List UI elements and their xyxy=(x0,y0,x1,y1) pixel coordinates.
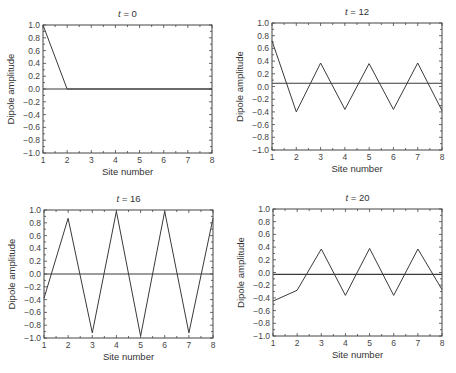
x-tick-label: 6 xyxy=(162,340,167,350)
y-tick-label: −0.2 xyxy=(23,97,40,107)
figure: t = 0123456781.00.80.60.40.20.0−0.2−0.4−… xyxy=(0,0,456,373)
x-tick-label: 4 xyxy=(113,155,118,165)
y-tick-label: −0.8 xyxy=(253,318,270,328)
y-tick-label: −0.4 xyxy=(24,295,41,305)
y-tick-label: 0.2 xyxy=(28,71,40,81)
x-tick-label: 7 xyxy=(415,152,420,162)
x-tick-label: 2 xyxy=(66,340,71,350)
y-tick-label: −0.8 xyxy=(23,135,40,145)
panel-title: t = 20 xyxy=(345,192,369,203)
x-tick-label: 3 xyxy=(90,340,95,350)
y-tick-label: 0.4 xyxy=(28,58,40,68)
x-tick-label: 6 xyxy=(161,155,166,165)
x-tick-label: 7 xyxy=(186,340,191,350)
x-tick-label: 3 xyxy=(319,338,324,348)
panel-title: t = 16 xyxy=(116,193,140,204)
x-tick-label: 2 xyxy=(295,338,300,348)
dipole-line xyxy=(43,25,212,89)
x-axis-label: Site number xyxy=(332,349,383,360)
x-axis-label: Site number xyxy=(102,166,153,177)
x-tick-label: 1 xyxy=(270,152,275,162)
y-tick-label: 0.6 xyxy=(28,46,40,56)
x-tick-label: 5 xyxy=(138,340,143,350)
y-tick-label: 1.0 xyxy=(258,204,270,214)
x-tick-label: 1 xyxy=(42,340,47,350)
y-tick-label: 0.0 xyxy=(258,268,270,278)
y-tick-label: −0.6 xyxy=(253,306,270,316)
y-tick-label: −0.8 xyxy=(252,132,269,142)
y-axis-label: Dipole amplitude xyxy=(5,54,16,125)
y-tick-label: 0.0 xyxy=(257,82,269,92)
dipole-line xyxy=(272,41,442,112)
y-tick-label: 0.2 xyxy=(257,69,269,79)
y-tick-label: 0.0 xyxy=(29,269,41,279)
x-tick-label: 1 xyxy=(271,338,276,348)
y-tick-label: 0.8 xyxy=(29,218,41,228)
x-tick-label: 8 xyxy=(210,155,215,165)
y-tick-label: 1.0 xyxy=(28,20,40,30)
y-tick-label: −1.0 xyxy=(253,331,270,341)
x-tick-label: 8 xyxy=(211,340,216,350)
chart-panel-3: t = 16123456781.00.80.60.40.20.0−0.2−0.4… xyxy=(6,193,216,362)
x-axis-label: Site number xyxy=(103,351,154,362)
x-tick-label: 5 xyxy=(137,155,142,165)
x-tick-label: 8 xyxy=(440,152,445,162)
y-tick-label: −1.0 xyxy=(252,145,269,155)
y-tick-label: −1.0 xyxy=(23,148,40,158)
x-tick-label: 1 xyxy=(41,155,46,165)
y-tick-label: −0.8 xyxy=(24,320,41,330)
x-tick-label: 6 xyxy=(391,152,396,162)
y-tick-label: 0.6 xyxy=(258,229,270,239)
y-tick-label: −0.4 xyxy=(253,293,270,303)
panel-title: t = 12 xyxy=(345,6,369,17)
y-tick-label: 0.8 xyxy=(28,33,40,43)
y-axis-label: Dipole amplitude xyxy=(234,51,245,122)
x-tick-label: 3 xyxy=(89,155,94,165)
x-tick-label: 7 xyxy=(415,338,420,348)
x-tick-label: 8 xyxy=(440,338,445,348)
chart-panel-2: t = 12123456781.00.80.60.40.20.0−0.2−0.4… xyxy=(234,6,445,174)
x-tick-label: 4 xyxy=(343,338,348,348)
y-tick-label: 0.4 xyxy=(257,56,269,66)
y-tick-label: −0.4 xyxy=(252,107,269,117)
x-tick-label: 4 xyxy=(114,340,119,350)
y-tick-label: 0.2 xyxy=(29,256,41,266)
y-tick-label: −0.2 xyxy=(253,280,270,290)
y-tick-label: 0.2 xyxy=(258,255,270,265)
y-tick-label: 0.8 xyxy=(257,31,269,41)
y-tick-label: −0.2 xyxy=(24,282,41,292)
y-tick-label: 0.4 xyxy=(29,243,41,253)
x-tick-label: 3 xyxy=(318,152,323,162)
y-tick-label: −0.2 xyxy=(252,94,269,104)
x-tick-label: 5 xyxy=(367,338,372,348)
y-tick-label: 0.8 xyxy=(258,217,270,227)
x-axis-label: Site number xyxy=(331,163,382,174)
x-tick-label: 4 xyxy=(342,152,347,162)
chart-panel-4: t = 20123456781.00.80.60.40.20.0−0.2−0.4… xyxy=(235,192,445,360)
y-tick-label: 0.6 xyxy=(257,43,269,53)
y-tick-label: 0.6 xyxy=(29,231,41,241)
y-axis-label: Dipole amplitude xyxy=(6,239,17,310)
y-tick-label: 1.0 xyxy=(257,18,269,28)
y-tick-label: 0.4 xyxy=(258,242,270,252)
y-tick-label: 1.0 xyxy=(29,205,41,215)
panel-title: t = 0 xyxy=(118,8,137,19)
x-tick-label: 2 xyxy=(294,152,299,162)
y-tick-label: −1.0 xyxy=(24,333,41,343)
y-tick-label: −0.6 xyxy=(24,307,41,317)
x-tick-label: 6 xyxy=(391,338,396,348)
x-tick-label: 2 xyxy=(65,155,70,165)
y-tick-label: −0.4 xyxy=(23,110,40,120)
x-tick-label: 5 xyxy=(367,152,372,162)
y-tick-label: −0.6 xyxy=(23,122,40,132)
y-axis-label: Dipole amplitude xyxy=(235,237,246,308)
y-tick-label: 0.0 xyxy=(28,84,40,94)
x-tick-label: 7 xyxy=(185,155,190,165)
chart-panel-1: t = 0123456781.00.80.60.40.20.0−0.2−0.4−… xyxy=(5,8,215,177)
y-tick-label: −0.6 xyxy=(252,120,269,130)
